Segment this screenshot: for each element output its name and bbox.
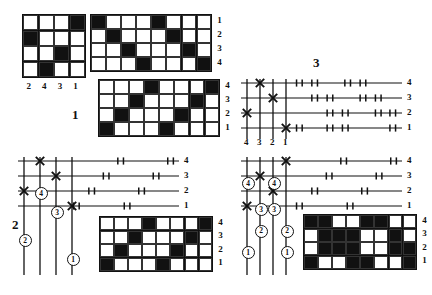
grid-cell [23, 62, 38, 77]
grid-cell [403, 256, 417, 269]
grid-cell [129, 94, 144, 108]
grid-cell [23, 15, 38, 30]
grid-cell [151, 29, 166, 43]
grid-cell [136, 15, 151, 29]
grid-cell [114, 80, 129, 94]
warp-label: 4 [244, 138, 249, 147]
grid-cell [182, 57, 197, 71]
grid-cell [136, 57, 151, 71]
shaft-label: 4 [184, 156, 189, 165]
grid-cell [170, 217, 184, 230]
grid-cell [346, 242, 360, 255]
grid-cell [114, 244, 128, 257]
grid-cell [182, 29, 197, 43]
grid-cell [91, 29, 106, 43]
grid-cell [304, 256, 318, 269]
grid-cell [121, 57, 136, 71]
grid-cell [170, 244, 184, 257]
grid-cell [156, 244, 170, 257]
shaft-label: 1 [184, 201, 189, 210]
grid-cell [70, 15, 85, 30]
shaft-label: 2 [407, 186, 412, 195]
grid-cell [106, 29, 121, 43]
grid-cell [332, 256, 346, 269]
grid-cell [197, 43, 212, 57]
grid-cell [205, 122, 220, 136]
grid-cell [346, 229, 360, 242]
grid-cell [159, 122, 174, 136]
circled-number: 2 [19, 234, 32, 247]
grid-cell [156, 217, 170, 230]
circled-number: 1 [281, 246, 294, 259]
drawdown-8x4-fig3-inverse [303, 214, 417, 270]
grid-cell [144, 80, 159, 94]
grid-cell [128, 244, 142, 257]
grid-cell [159, 94, 174, 108]
grid-column-label: 2 [27, 82, 32, 91]
grid-cell [106, 57, 121, 71]
grid-cell [190, 122, 205, 136]
circled-number: 4 [268, 177, 281, 190]
grid-cell [156, 231, 170, 244]
grid-cell [91, 57, 106, 71]
grid-cell [121, 43, 136, 57]
grid-cell [23, 46, 38, 61]
grid-cell [142, 217, 156, 230]
grid-cell [403, 215, 417, 228]
grid-cell [54, 15, 69, 30]
grid-cell [182, 43, 197, 57]
grid-cell [114, 231, 128, 244]
grid-cell [151, 57, 166, 71]
grid-cell [199, 244, 213, 257]
grid-cell [166, 29, 181, 43]
grid-cell [129, 122, 144, 136]
grid-cell [389, 242, 403, 255]
grid-cell [185, 217, 199, 230]
grid-cell [144, 122, 159, 136]
grid-row-label: 1 [225, 123, 230, 132]
grid-cell [144, 94, 159, 108]
grid-row-label: 3 [218, 231, 223, 240]
drawdown-8x4-fig2 [99, 216, 213, 272]
grid-row-label: 2 [218, 245, 223, 254]
grid-cell [205, 108, 220, 122]
grid-cell [199, 231, 213, 244]
grid-cell [332, 229, 346, 242]
grid-cell [185, 231, 199, 244]
grid-cell [304, 215, 318, 228]
grid-cell [360, 215, 374, 228]
grid-cell [360, 242, 374, 255]
grid-cell [106, 15, 121, 29]
grid-cell [70, 31, 85, 46]
grid-row-label: 3 [217, 44, 222, 53]
grid-cell [91, 43, 106, 57]
grid-cell [197, 57, 212, 71]
grid-cell [374, 242, 388, 255]
grid-cell [129, 80, 144, 94]
grid-cell [346, 256, 360, 269]
grid-cell [360, 229, 374, 242]
grid-cell [99, 80, 114, 94]
grid-cell [159, 80, 174, 94]
drawdown-8x4-fig1 [98, 79, 220, 137]
diagram-plate: 2431123443211432124312432134321432143214… [0, 0, 432, 295]
grid-cell [99, 122, 114, 136]
shaft-label: 3 [184, 171, 189, 180]
grid-cell [136, 29, 151, 43]
grid-cell [99, 94, 114, 108]
grid-cell [142, 258, 156, 271]
grid-cell [100, 244, 114, 257]
grid-cell [374, 229, 388, 242]
grid-cell [174, 80, 189, 94]
grid-cell [403, 229, 417, 242]
grid-cell [190, 94, 205, 108]
circled-number: 3 [255, 203, 268, 216]
threading-diagram-fig3-top [241, 79, 416, 139]
grid-cell [205, 80, 220, 94]
grid-cell [39, 31, 54, 46]
grid-cell [374, 215, 388, 228]
circled-number: 1 [67, 253, 80, 266]
grid-row-label: 4 [422, 216, 427, 225]
grid-cell [128, 217, 142, 230]
circled-number: 4 [35, 187, 48, 200]
